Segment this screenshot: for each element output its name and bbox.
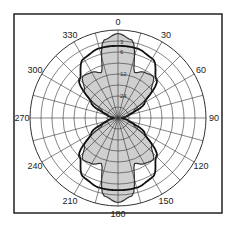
angle-label-240: 240 xyxy=(27,161,42,171)
angle-label-0: 0 xyxy=(115,17,120,27)
angle-label-150: 150 xyxy=(158,196,173,206)
angle-label-30: 30 xyxy=(161,30,171,40)
angle-label-180: 180 xyxy=(110,209,125,219)
angle-label-120: 120 xyxy=(194,161,209,171)
angle-label-300: 300 xyxy=(27,65,42,75)
polar-chart: 0306090120150180210240270300330 361224 xyxy=(0,0,230,229)
angle-label-60: 60 xyxy=(196,65,206,75)
angle-label-90: 90 xyxy=(209,113,219,123)
angle-label-210: 210 xyxy=(62,196,77,206)
radial-label-24: 24 xyxy=(120,93,127,99)
angle-label-330: 330 xyxy=(62,30,77,40)
polar-grid-overlay xyxy=(30,30,206,206)
angle-label-270: 270 xyxy=(14,113,29,123)
radial-label-12: 12 xyxy=(120,71,127,77)
